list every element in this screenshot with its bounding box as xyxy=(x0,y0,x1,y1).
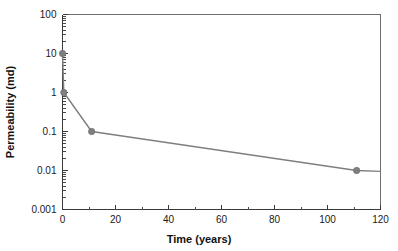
x-axis-title: Time (years) xyxy=(167,233,232,245)
x-tick-label: 40 xyxy=(163,214,175,225)
permeability-vs-time-chart: 1001010.10.010.001 020406080100120 Time … xyxy=(0,0,398,251)
y-tick-label: 0.001 xyxy=(31,204,56,215)
x-tick-label: 20 xyxy=(110,214,122,225)
y-tick-label: 0.01 xyxy=(37,165,57,176)
chart-canvas: 1001010.10.010.001 020406080100120 Time … xyxy=(0,0,398,251)
x-tick-label: 100 xyxy=(319,214,336,225)
y-axis-title: Permeability (md) xyxy=(4,66,16,159)
x-tick-label: 120 xyxy=(372,214,389,225)
y-tick-label: 100 xyxy=(40,9,57,20)
x-tick-label: 0 xyxy=(60,214,66,225)
data-point-marker xyxy=(353,167,359,173)
data-point-marker xyxy=(59,50,65,56)
y-tick-label: 10 xyxy=(45,48,57,59)
y-tick-label: 0.1 xyxy=(43,126,57,137)
x-tick-label: 80 xyxy=(269,214,281,225)
x-tick-label: 60 xyxy=(216,214,228,225)
data-point-marker xyxy=(61,89,67,95)
data-point-marker xyxy=(88,128,94,134)
y-tick-label: 1 xyxy=(51,87,57,98)
